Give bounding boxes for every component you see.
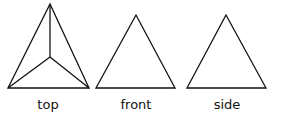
front-view	[96, 15, 175, 88]
top-view-label: top	[18, 97, 78, 112]
side-view-label: side	[197, 97, 257, 112]
top-view	[8, 4, 89, 88]
side-view	[187, 15, 266, 88]
front-view-label: front	[106, 97, 166, 112]
